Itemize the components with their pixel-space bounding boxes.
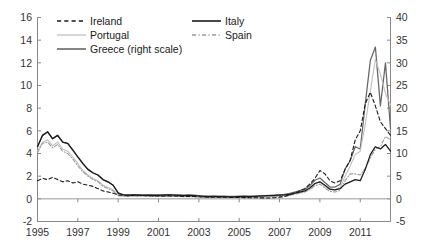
chart-container: -20246810121416-505101520253035401995199… (0, 0, 424, 250)
right-axis-tick-label: 30 (396, 57, 408, 69)
right-axis-tick-label: 15 (396, 125, 408, 137)
series-line-portugal (38, 59, 391, 197)
x-axis-tick-label: 2001 (147, 226, 171, 238)
legend-label: Italy (225, 15, 245, 27)
legend-label: Ireland (90, 15, 122, 27)
left-axis-tick-label: 4 (26, 147, 32, 159)
legend-label: Greece (right scale) (90, 43, 182, 55)
x-axis-tick-label: 1999 (107, 226, 131, 238)
left-axis-tick-label: 12 (20, 57, 32, 69)
left-axis-tick-label: 0 (26, 193, 32, 205)
series-line-greece (38, 47, 391, 196)
series-line-italy (38, 132, 391, 197)
x-axis-tick-label: 2003 (187, 226, 211, 238)
left-axis-tick-label: 10 (20, 79, 32, 91)
x-axis-tick-label: 2005 (228, 226, 252, 238)
right-axis-tick-label: 5 (396, 170, 402, 182)
right-axis-tick-label: -5 (396, 215, 405, 227)
line-chart: -20246810121416-505101520253035401995199… (0, 0, 424, 250)
left-axis-tick-label: 2 (26, 170, 32, 182)
legend-label: Portugal (90, 29, 129, 41)
right-axis-tick-label: 25 (396, 79, 408, 91)
right-axis-tick-label: 35 (396, 34, 408, 46)
right-axis-tick-label: 20 (396, 102, 408, 114)
x-axis-tick-label: 2011 (349, 226, 372, 238)
left-axis-tick-label: 14 (20, 34, 32, 46)
x-axis-tick-label: 1997 (66, 226, 90, 238)
x-axis-tick-label: 2009 (308, 226, 332, 238)
series-line-ireland (38, 92, 391, 198)
right-axis-tick-label: 40 (396, 11, 408, 23)
right-axis-tick-label: 10 (396, 147, 408, 159)
x-axis-tick-label: 2007 (268, 226, 292, 238)
right-axis-tick-label: 0 (396, 193, 402, 205)
left-axis-tick-label: 6 (26, 125, 32, 137)
left-axis-tick-label: 8 (26, 102, 32, 114)
left-axis-tick-label: 16 (20, 11, 32, 23)
legend-label: Spain (225, 29, 252, 41)
x-axis-tick-label: 1995 (26, 226, 50, 238)
